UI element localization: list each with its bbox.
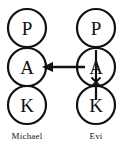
node-letter: K [20,95,34,116]
node-michael-p[interactable]: P [8,9,46,47]
person-label-evi: Evi [89,131,102,141]
person-label-michael: Michael [12,131,43,141]
column-michael: P A K [8,9,46,124]
node-letter: P [22,18,33,39]
pedigree-diagram: P A K P A K [0,0,125,146]
node-michael-a[interactable]: A [8,48,46,86]
node-michael-k[interactable]: K [8,86,46,124]
diagram-canvas: P A K P A K [0,0,125,146]
node-letter: P [91,18,102,39]
node-evi-p[interactable]: P [77,9,115,47]
node-letter: A [20,57,34,78]
